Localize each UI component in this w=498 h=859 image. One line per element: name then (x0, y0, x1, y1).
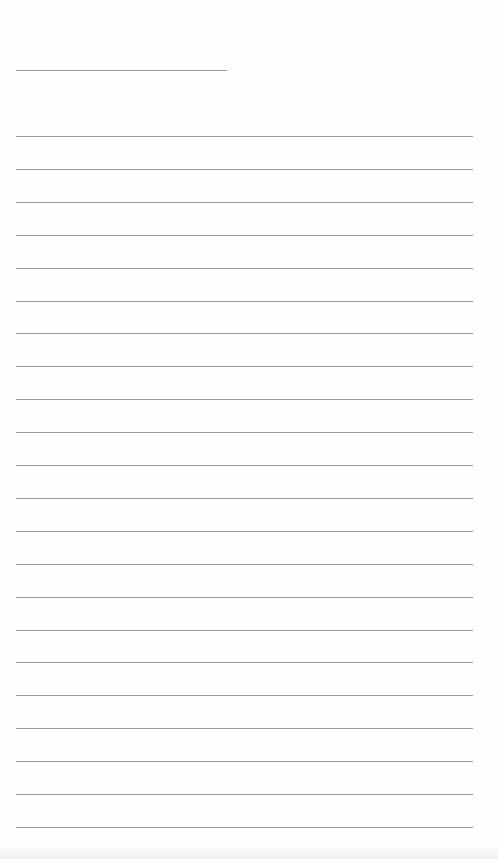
writing-line (16, 630, 473, 631)
writing-line (16, 662, 473, 663)
writing-line (16, 136, 473, 137)
writing-line (16, 728, 473, 729)
writing-line (16, 564, 473, 565)
writing-line (16, 268, 473, 269)
writing-line (16, 531, 473, 532)
writing-line (16, 235, 473, 236)
bottom-edge-shadow (0, 845, 498, 859)
writing-line (16, 202, 473, 203)
writing-line (16, 366, 473, 367)
writing-line (16, 827, 473, 828)
writing-line (16, 169, 473, 170)
writing-line (16, 695, 473, 696)
writing-line (16, 498, 473, 499)
lined-page (0, 0, 498, 859)
writing-line (16, 597, 473, 598)
writing-line (16, 761, 473, 762)
title-line (16, 70, 227, 71)
writing-line (16, 794, 473, 795)
writing-line (16, 301, 473, 302)
writing-line (16, 465, 473, 466)
writing-line (16, 432, 473, 433)
writing-line (16, 399, 473, 400)
writing-line (16, 333, 473, 334)
